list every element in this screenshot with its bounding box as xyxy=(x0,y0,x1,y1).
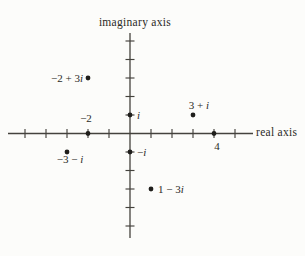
point-dot xyxy=(128,113,133,118)
complex-plane-figure: imaginary axis real axis −2 + 3i−2i3 + i… xyxy=(0,0,305,256)
point-label: −3 − i xyxy=(57,153,83,165)
point-dot xyxy=(86,76,91,81)
point-label: −2 xyxy=(80,112,92,124)
point-dot xyxy=(212,131,217,136)
complex-plane-svg: imaginary axis real axis −2 + 3i−2i3 + i… xyxy=(0,0,305,256)
imaginary-axis-label: imaginary axis xyxy=(99,16,171,29)
real-axis-label: real axis xyxy=(256,126,298,138)
plot-layer: −2 + 3i−2i3 + i4−3 − i−i1 − 3i xyxy=(8,33,253,238)
point-dot xyxy=(149,187,154,192)
point-dot xyxy=(191,113,196,118)
point-label: 1 − 3i xyxy=(158,183,184,195)
point-label: −i xyxy=(137,146,146,158)
point-label: i xyxy=(137,109,140,121)
point-label: 3 + i xyxy=(189,99,209,111)
point-label: −2 + 3i xyxy=(51,72,83,84)
point-dot xyxy=(86,131,91,136)
point-dot xyxy=(128,150,133,155)
point-label: 4 xyxy=(214,140,220,152)
